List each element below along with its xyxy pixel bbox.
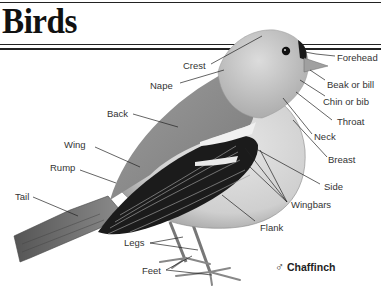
label-nape: Nape: [150, 80, 173, 91]
species-name: Chaffinch: [287, 261, 335, 273]
label-tail: Tail: [15, 191, 29, 202]
bird-beak: [304, 58, 328, 72]
chaffinch-illustration: [0, 0, 381, 295]
label-crest: Crest: [183, 60, 206, 71]
label-wingbars: Wingbars: [291, 199, 331, 210]
bird-feet: [160, 258, 240, 285]
bird-eye: [282, 47, 290, 55]
label-wing: Wing: [64, 139, 86, 150]
label-beak: Beak or bill: [327, 79, 374, 90]
label-breast: Breast: [328, 154, 355, 165]
label-flank: Flank: [260, 222, 283, 233]
label-throat: Throat: [337, 116, 364, 127]
label-chin: Chin or bib: [323, 96, 369, 107]
label-back: Back: [107, 108, 128, 119]
male-symbol-icon: ♂: [275, 260, 284, 274]
label-neck: Neck: [314, 131, 336, 142]
label-forehead: Forehead: [337, 52, 378, 63]
label-rump: Rump: [50, 162, 75, 173]
label-side: Side: [324, 181, 343, 192]
label-feet: Feet: [142, 265, 161, 276]
species-caption: ♂Chaffinch: [275, 260, 335, 274]
bird-head: [218, 30, 308, 118]
label-legs: Legs: [124, 237, 145, 248]
